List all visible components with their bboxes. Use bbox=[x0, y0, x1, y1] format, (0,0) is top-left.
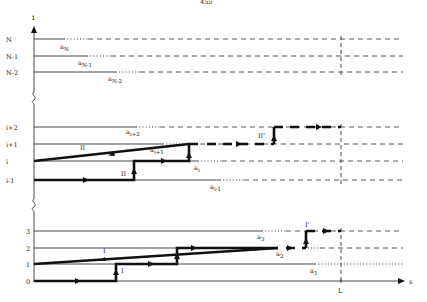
svg-text:a2: a2 bbox=[276, 250, 283, 259]
svg-text:ai-1: ai-1 bbox=[210, 183, 221, 192]
path-I: I I bbox=[34, 245, 278, 284]
level-0: 0 bbox=[26, 278, 30, 286]
svg-text:N-1: N-1 bbox=[6, 53, 18, 61]
arrow-right-icon bbox=[161, 158, 167, 164]
x-axis: s L bbox=[34, 36, 412, 295]
arrow-right-icon bbox=[316, 124, 322, 130]
arrow-up-icon bbox=[131, 168, 137, 174]
axis-break-icon bbox=[32, 92, 35, 104]
svg-text:ai: ai bbox=[194, 164, 200, 173]
svg-text:aN-1: aN-1 bbox=[78, 59, 92, 68]
svg-text:aN-2: aN-2 bbox=[108, 75, 122, 84]
svg-text:2: 2 bbox=[26, 245, 30, 253]
svg-text:N: N bbox=[6, 36, 12, 44]
path-I-prime: I' bbox=[286, 221, 341, 251]
svg-text:i-1: i-1 bbox=[6, 177, 14, 185]
y-axis: i bbox=[31, 13, 37, 282]
level-N: N aN bbox=[6, 36, 403, 52]
svg-text:II: II bbox=[121, 170, 127, 178]
svg-text:II: II bbox=[80, 144, 86, 152]
svg-text:i+2: i+2 bbox=[6, 124, 18, 132]
arrow-right-icon bbox=[75, 278, 81, 284]
svg-text:aN: aN bbox=[60, 43, 69, 52]
page-header: 455 bbox=[200, 0, 212, 6]
arrow-right-icon bbox=[83, 177, 89, 183]
level-N-2: N-2 aN-2 bbox=[6, 69, 403, 84]
svg-text:N-2: N-2 bbox=[6, 69, 18, 77]
trajectory-diagram: 455 i s L N aN N-1 aN-1 N-2 bbox=[0, 0, 427, 302]
arrow-up-icon bbox=[271, 135, 277, 141]
arrow-right-icon bbox=[148, 261, 154, 267]
x-axis-label: s bbox=[409, 278, 412, 286]
path-II: II II bbox=[34, 144, 198, 183]
svg-text:I: I bbox=[103, 247, 106, 255]
svg-text:a1: a1 bbox=[310, 267, 317, 276]
level-i-plus-2: i+2 ai+2 bbox=[6, 124, 403, 137]
arrow-right-icon bbox=[236, 141, 242, 147]
arrow-up-icon bbox=[113, 269, 119, 275]
y-axis-label: i bbox=[32, 13, 35, 22]
level-N-1: N-1 aN-1 bbox=[6, 53, 403, 68]
svg-text:I: I bbox=[121, 267, 124, 275]
svg-text:0: 0 bbox=[26, 278, 30, 286]
svg-text:ai+2: ai+2 bbox=[126, 128, 140, 137]
svg-text:i+1: i+1 bbox=[6, 141, 18, 149]
arrow-right-icon bbox=[191, 245, 197, 251]
arrow-right-icon bbox=[287, 245, 293, 251]
svg-text:3: 3 bbox=[26, 228, 30, 236]
axis-break-icon bbox=[32, 199, 35, 212]
level-3: 3 a3 bbox=[26, 228, 403, 242]
svg-text:II': II' bbox=[258, 132, 265, 140]
arrow-right-icon bbox=[323, 228, 329, 234]
axis-arrow-up-icon bbox=[31, 26, 37, 33]
svg-text:1: 1 bbox=[26, 261, 30, 269]
level-i: i ai bbox=[6, 158, 403, 173]
level-1: 1 a1 bbox=[26, 261, 403, 276]
level-i-plus-1: i+1 ai+1 bbox=[6, 141, 403, 155]
svg-text:i: i bbox=[6, 158, 8, 166]
svg-text:I': I' bbox=[305, 221, 310, 229]
axis-arrow-right-icon bbox=[398, 278, 405, 284]
x-marker-L: L bbox=[338, 287, 343, 295]
arrow-up-icon bbox=[186, 152, 192, 158]
arrow-up-icon bbox=[303, 238, 309, 244]
svg-text:a3: a3 bbox=[257, 233, 265, 242]
